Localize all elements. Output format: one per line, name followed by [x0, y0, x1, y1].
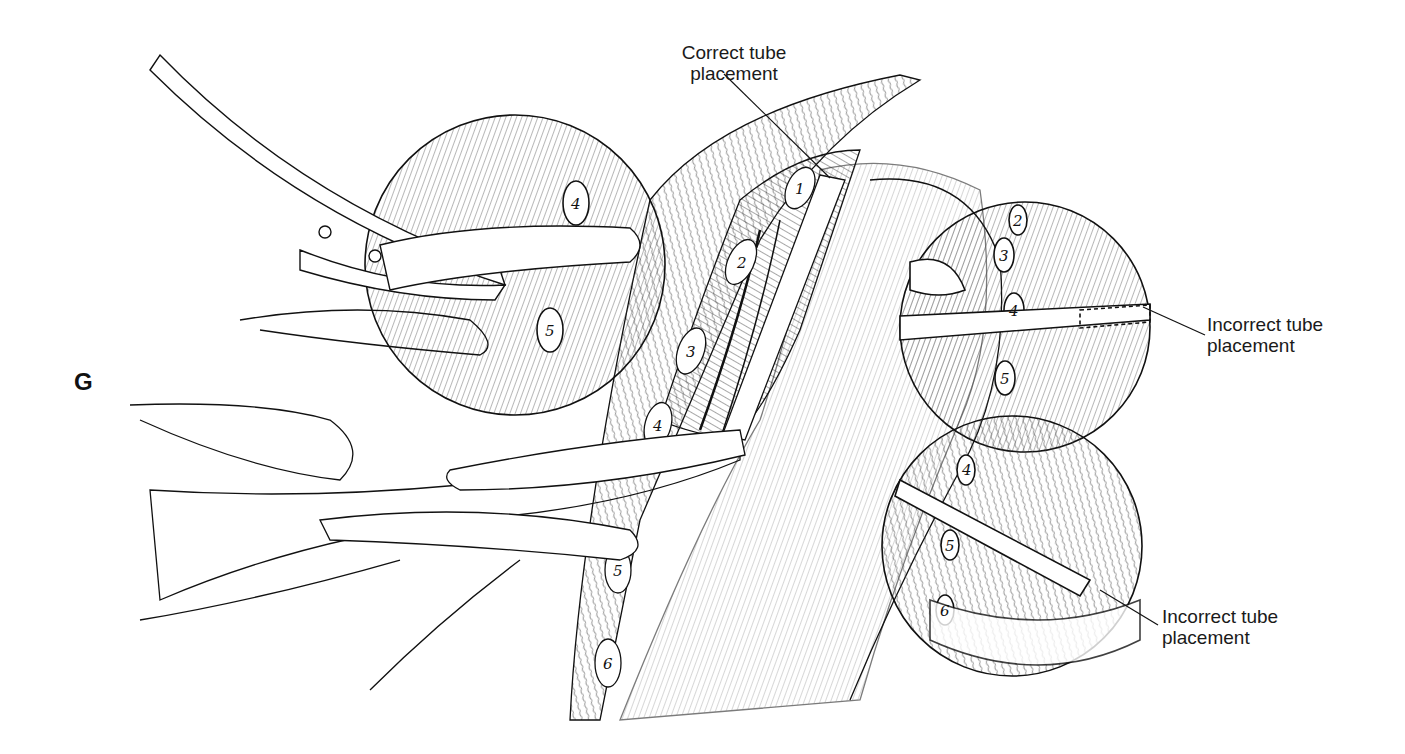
- label-line: placement: [674, 63, 794, 84]
- label-incorrect-tube-placement-lower: Incorrect tube placement: [1162, 606, 1278, 648]
- rib-number-5: 5: [613, 562, 623, 580]
- inset-left-rib-4: 4: [570, 195, 581, 213]
- inset-ur-rib-4: 4: [1008, 302, 1019, 320]
- rib-number-6: 6: [603, 655, 613, 673]
- inset-ur-rib-5: 5: [1000, 370, 1010, 388]
- inset-lr-rib-4: 4: [961, 461, 972, 479]
- label-incorrect-tube-placement-upper: Incorrect tube placement: [1207, 314, 1323, 356]
- label-line: Incorrect tube: [1162, 606, 1278, 627]
- inset-ur-rib-2: 2: [1012, 212, 1023, 230]
- inset-upper-right: [900, 202, 1150, 452]
- label-line: Correct tube: [674, 42, 794, 63]
- label-correct-tube-placement: Correct tube placement: [674, 42, 794, 84]
- label-line: placement: [1162, 627, 1278, 648]
- rib-number-1: 1: [795, 180, 805, 198]
- inset-lr-rib-6: 6: [940, 602, 950, 620]
- inset-lr-rib-5: 5: [945, 537, 955, 555]
- label-line: placement: [1207, 335, 1323, 356]
- rib-number-3: 3: [686, 343, 696, 361]
- label-line: Incorrect tube: [1207, 314, 1323, 335]
- rib-number-2: 2: [736, 254, 747, 272]
- inset-left-rib-5: 5: [545, 322, 555, 340]
- inset-ur-rib-3: 3: [999, 247, 1009, 265]
- leader-incorrect-upper: [1143, 307, 1205, 335]
- rib-number-4: 4: [652, 417, 663, 435]
- inset-lower-right: [882, 416, 1142, 676]
